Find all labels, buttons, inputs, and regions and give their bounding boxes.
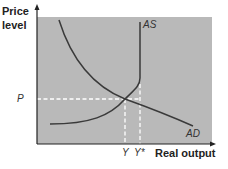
x-axis-label: Real output — [155, 148, 216, 159]
price-label: P — [17, 94, 24, 104]
x-axis-arrow-icon — [210, 142, 216, 147]
ad-curve-label: AD — [186, 129, 200, 139]
ad-as-diagram — [0, 0, 228, 169]
y-axis-label-line1: Price — [2, 6, 29, 17]
y-label: Y — [122, 148, 129, 158]
ystar-label: Y* — [134, 148, 145, 158]
y-axis-arrow-icon — [35, 4, 40, 10]
y-axis-label-line2: level — [2, 20, 26, 31]
plot-panel — [37, 17, 212, 144]
as-curve-label: AS — [143, 20, 156, 30]
